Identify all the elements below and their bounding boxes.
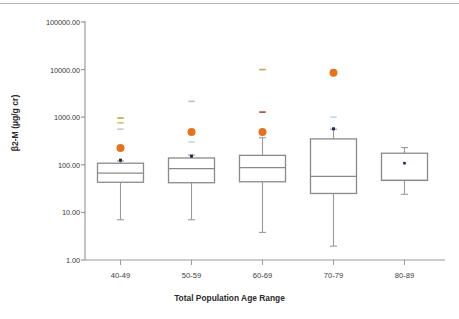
outlier-point-highlight [188, 128, 196, 136]
x-tick-label: 50-59 [182, 271, 201, 280]
outlier-point-highlight [330, 69, 338, 77]
box-iqr [169, 158, 215, 183]
x-tick-label: 70-79 [324, 271, 343, 280]
x-tick-label: 60-69 [253, 271, 272, 280]
mean-marker [332, 127, 335, 130]
mean-marker [190, 155, 193, 158]
outlier-point-highlight [259, 128, 267, 136]
mean-marker [403, 162, 406, 165]
box-iqr [240, 155, 286, 181]
x-tick-label: 80-89 [395, 271, 414, 280]
x-axis-tick-labels: 40-4950-5960-6970-7980-89 [0, 271, 459, 285]
box-iqr [311, 139, 357, 194]
x-tick-label: 40-49 [111, 271, 130, 280]
box-iqr [382, 153, 428, 180]
outlier-point-highlight [117, 144, 125, 152]
chart-canvas: 100000.0010000.001000.00100.0010.001.00 … [0, 0, 459, 319]
mean-marker [119, 159, 122, 162]
x-axis-title: Total Population Age Range [0, 293, 459, 303]
